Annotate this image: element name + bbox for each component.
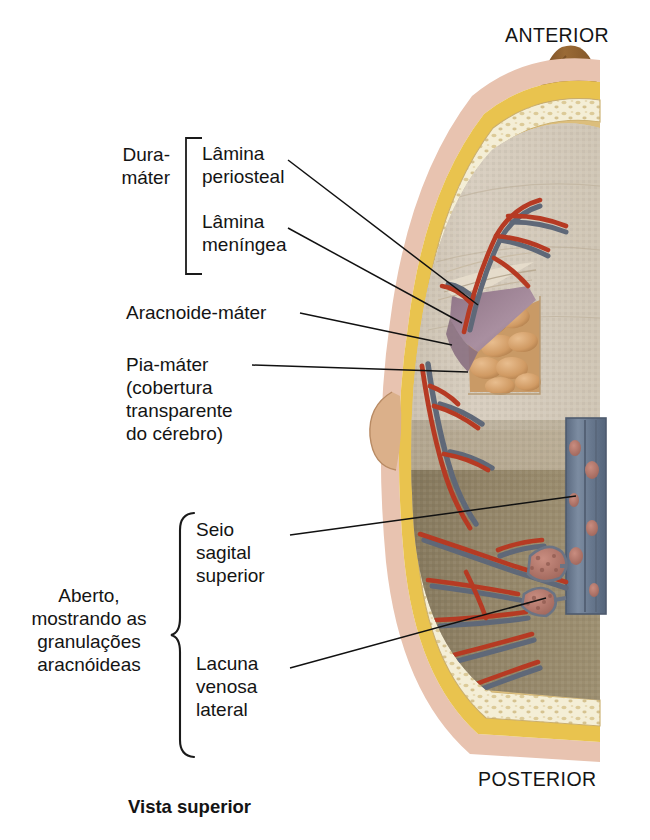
aracnoide-mater-label: Aracnoide-máter <box>126 301 266 324</box>
temporal-bulge <box>370 392 401 470</box>
dura-bracket <box>182 136 204 276</box>
dura-mater-group-label: Dura- máter <box>58 143 170 189</box>
aberto-granulacoes-label: Aberto, mostrando as granulações aracnói… <box>14 584 164 676</box>
aberto-brace <box>168 510 198 760</box>
lamina-periosteal-label: Lâmina periosteal <box>202 142 284 188</box>
figure-caption: Vista superior <box>128 795 251 818</box>
orientation-anterior-label: ANTERIOR <box>505 24 609 47</box>
anatomical-illustration <box>0 0 650 840</box>
superior-sagittal-sinus <box>566 418 606 614</box>
lamina-meningea-label: Lâmina meníngea <box>202 210 287 256</box>
pia-mater-label: Pia-máter (cobertura transparente do cér… <box>126 353 233 445</box>
seio-sagital-superior-label: Seio sagital superior <box>196 518 265 587</box>
orientation-posterior-label: POSTERIOR <box>478 768 596 791</box>
lacuna-venosa-lateral-label: Lacuna venosa lateral <box>196 652 258 721</box>
